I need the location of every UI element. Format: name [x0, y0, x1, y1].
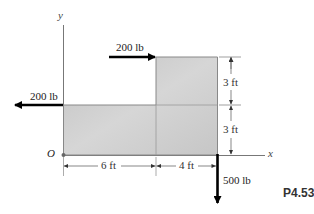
origin-label: O	[47, 147, 55, 159]
force-label-left: 200 lb	[30, 90, 58, 102]
dim-label-horizontal-2: 4 ft	[179, 159, 194, 171]
y-axis-label: y	[58, 9, 63, 21]
plate	[64, 57, 218, 155]
diagram-canvas	[0, 0, 314, 214]
force-label-top: 200 lb	[116, 41, 144, 53]
problem-label: P4.53	[283, 186, 314, 200]
force-label-bottom: 500 lb	[223, 174, 251, 186]
x-axis-label: x	[268, 147, 273, 159]
vertical-dimensions	[219, 57, 241, 155]
dim-label-vertical-1: 3 ft	[223, 76, 238, 88]
dim-label-vertical-2: 3 ft	[223, 123, 238, 135]
origin-point	[62, 153, 66, 157]
dim-label-horizontal-1: 6 ft	[101, 159, 116, 171]
